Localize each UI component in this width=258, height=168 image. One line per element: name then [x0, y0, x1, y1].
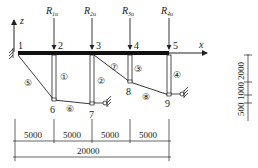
load-label-R1u: R1u: [45, 5, 58, 17]
load-label-R4u: R4u: [160, 5, 173, 17]
member-8-label: ⑧: [142, 92, 150, 102]
node-1-label: 1: [18, 40, 23, 51]
node-6-label: 6: [50, 104, 55, 115]
node-9-label: 9: [165, 98, 170, 109]
node-8-label: 8: [126, 86, 131, 97]
span-3-label: 5000: [101, 130, 120, 140]
node-4-label: 4: [134, 40, 139, 51]
span-dimension-labels: 5000 5000 5000 5000 20000: [24, 130, 158, 156]
member-6-label: ⑥: [66, 104, 74, 114]
node-7-label: 7: [89, 109, 94, 120]
truss-diagram: z x R1u R2u R3u R4u 1 2 3 4 5 6 7 8 9: [0, 0, 258, 168]
member-7-label: ⑦: [110, 62, 118, 72]
member-2-label: ②: [97, 76, 105, 86]
beam: [18, 51, 169, 55]
node-2-label: 2: [58, 40, 63, 51]
pin-support-icon: [94, 87, 188, 107]
z-axis-label: z: [19, 15, 24, 26]
node-5-label: 5: [173, 40, 178, 51]
load-label-R3u: R3u: [121, 5, 134, 17]
member-1-label: ①: [60, 72, 68, 82]
vdim-1000-label: 1000: [236, 82, 246, 101]
member-4-label: ④: [173, 70, 181, 80]
vertical-dimension-labels: 2000 1000 500: [236, 62, 246, 117]
vdim-2000-label: 2000: [236, 62, 246, 81]
span-2-label: 5000: [63, 130, 82, 140]
load-labels: R1u R2u R3u R4u: [45, 5, 173, 17]
member-5-label: ⑤: [24, 78, 32, 88]
member-labels: ① ② ③ ④ ⑤ ⑥ ⑦ ⑧: [24, 62, 181, 114]
x-axis-label: x: [198, 39, 204, 50]
load-arrows: [54, 18, 169, 49]
fixed-support-icon: [9, 48, 13, 59]
load-label-R2u: R2u: [83, 5, 96, 17]
vdim-500-label: 500: [236, 102, 246, 116]
member-3-label: ③: [134, 64, 142, 74]
total-span-label: 20000: [77, 146, 100, 156]
node-3-label: 3: [96, 40, 101, 51]
span-1-label: 5000: [24, 130, 43, 140]
span-4-label: 5000: [139, 130, 158, 140]
